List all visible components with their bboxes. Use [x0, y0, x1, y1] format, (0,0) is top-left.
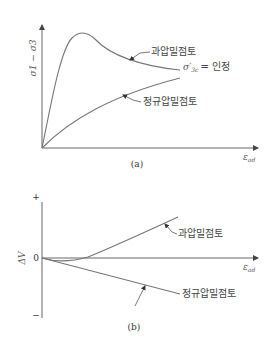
consolidation-diagram: σ1 − σ3 εad 과압밀점토 σ′3c= 인정 정규압밀점토 (a) + … — [0, 0, 274, 344]
panel-a-x-axis-label: εad — [243, 152, 255, 163]
panel-b-minus-sign: − — [32, 310, 40, 320]
panel-b-caption: (b) — [128, 322, 141, 332]
panel-a-overconsolidated-label: 과압밀점토 — [151, 45, 196, 57]
panel-b-overconsolidated-label: 과압밀점토 — [178, 227, 223, 239]
panel-a-normally-consolidated-label: 정규압밀점토 — [143, 95, 197, 107]
panel-a-confining-pressure-label: σ′3c= 인정 — [183, 61, 230, 73]
panel-b-zero-label: 0 — [33, 253, 39, 263]
panel-b-normally-consolidated-curve — [42, 258, 180, 294]
panel-b: + − 0 ΔV εad 과압밀점토 정규압밀점토 (b) — [17, 192, 258, 332]
panel-b-normally-consolidated-leader — [135, 286, 145, 306]
panel-a-normally-consolidated-curve — [42, 78, 180, 148]
panel-a: σ1 − σ3 εad 과압밀점토 σ′3c= 인정 정규압밀점토 (a) — [28, 25, 258, 169]
panel-a-caption: (a) — [131, 159, 143, 169]
panel-b-normally-consolidated-label: 정규압밀점토 — [182, 287, 236, 299]
panel-b-x-axis-label: εad — [243, 262, 255, 273]
panel-a-y-axis-label: σ1 − σ3 — [28, 39, 38, 76]
panel-b-y-axis-label: ΔV — [17, 250, 27, 265]
panel-a-overconsolidated-leader — [130, 52, 150, 60]
panel-b-overconsolidated-leader — [165, 224, 177, 234]
panel-a-normally-consolidated-leader — [123, 95, 141, 102]
panel-b-plus-sign: + — [32, 192, 40, 202]
panel-b-overconsolidated-curve — [42, 217, 178, 261]
